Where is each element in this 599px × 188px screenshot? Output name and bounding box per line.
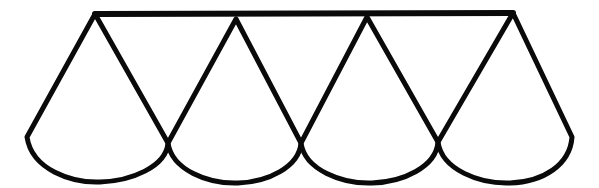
illustration-canvas: Four overlapping teardrop-shaped petals …: [0, 0, 599, 188]
scalloped-festoon-drawing: [0, 0, 599, 188]
horizontal-top-bar: [95, 13, 513, 14]
